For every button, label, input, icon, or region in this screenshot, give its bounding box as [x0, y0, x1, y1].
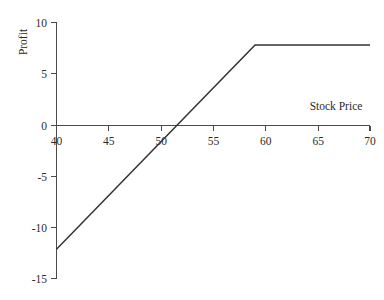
y-tick-label-10: 10 [36, 17, 48, 29]
series-line-profit [57, 45, 371, 249]
x-tick-label-70: 70 [364, 135, 376, 147]
y-tick-label-minus10: -10 [32, 222, 48, 234]
profit-diagram-chart: 10 5 0 -5 -10 -15 40 45 50 55 60 65 70 P… [0, 0, 384, 300]
x-axis-title: Stock Price [310, 100, 363, 112]
y-axis-title: Profit [17, 28, 29, 55]
x-tick-label-40: 40 [51, 135, 63, 147]
chart-canvas: 10 5 0 -5 -10 -15 40 45 50 55 60 65 70 P… [0, 0, 384, 300]
y-tick-label-5: 5 [41, 68, 47, 80]
y-tick-label-0: 0 [41, 120, 47, 132]
x-tick-label-65: 65 [312, 135, 324, 147]
y-tick-label-minus5: -5 [37, 171, 47, 183]
x-tick-label-55: 55 [208, 135, 220, 147]
x-tick-label-60: 60 [260, 135, 272, 147]
y-tick-label-minus15: -15 [32, 273, 48, 285]
x-tick-label-45: 45 [103, 135, 115, 147]
